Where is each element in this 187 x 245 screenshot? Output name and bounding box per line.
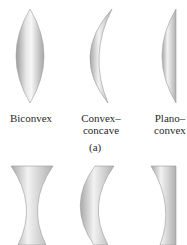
label-line: Convex– xyxy=(76,112,126,124)
label-convex-concave: Convex– concave xyxy=(76,112,126,136)
convex-concave-lens xyxy=(90,9,112,103)
biconcave-lens xyxy=(11,166,53,245)
panel-a-label: (a) xyxy=(89,141,101,153)
label-line: concave xyxy=(76,124,126,136)
concave-convex-lens xyxy=(80,166,114,245)
label-line: Plano– xyxy=(148,112,187,124)
label-line: Biconvex xyxy=(8,112,54,124)
label-line: convex xyxy=(148,124,187,136)
lens-types-figure: Biconvex Convex– concave Plano– convex (… xyxy=(0,0,187,245)
biconvex-lens xyxy=(16,9,44,103)
plano-concave-lens xyxy=(151,166,176,245)
plano-convex-lens xyxy=(162,9,176,103)
label-plano-convex: Plano– convex xyxy=(148,112,187,136)
label-biconvex: Biconvex xyxy=(8,112,54,124)
